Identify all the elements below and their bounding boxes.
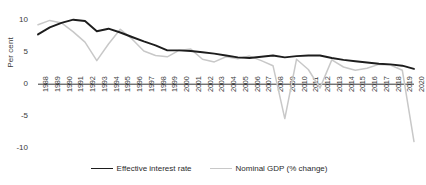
x-tick-label: 2020 xyxy=(417,76,426,92)
line-swatch-light-icon xyxy=(210,168,232,169)
legend-label-nominal-gdp: Nominal GDP (% change) xyxy=(236,164,328,173)
legend-label-effective-interest-rate: Effective interest rate xyxy=(117,164,192,173)
line-swatch-dark-icon xyxy=(91,168,113,169)
legend-item-nominal-gdp: Nominal GDP (% change) xyxy=(210,164,328,173)
series-line-effective-interest-rate xyxy=(38,20,414,69)
legend-item-effective-interest-rate: Effective interest rate xyxy=(91,164,192,173)
series-line-nominal-gdp-change xyxy=(38,20,414,141)
chart-legend: Effective interest rate Nominal GDP (% c… xyxy=(0,164,418,173)
